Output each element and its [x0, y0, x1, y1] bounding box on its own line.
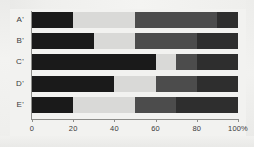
y-axis-line [31, 11, 32, 120]
y-tick-label: B' [17, 36, 24, 46]
x-tick-mark [238, 119, 239, 122]
stacked-bars [32, 11, 238, 119]
bar-segment[interactable] [217, 12, 238, 28]
x-tick-mark [114, 119, 115, 122]
bar-row[interactable] [32, 76, 238, 92]
y-tick-label: D' [16, 79, 24, 89]
bar-row[interactable] [32, 54, 238, 70]
bar-segment[interactable] [135, 33, 197, 49]
bar-segment[interactable] [197, 76, 238, 92]
bar-segment[interactable] [156, 76, 197, 92]
bar-segment[interactable] [32, 54, 156, 70]
x-tick-label: 20 [69, 124, 78, 133]
bar-segment[interactable] [32, 97, 73, 113]
x-tick-mark [197, 119, 198, 122]
x-tick-label: 40 [110, 124, 119, 133]
bar-segment[interactable] [135, 12, 217, 28]
bar-segment[interactable] [32, 12, 73, 28]
bar-row[interactable] [32, 33, 238, 49]
scan-edge-bottom [0, 136, 254, 147]
x-tick-label: 0 [30, 124, 34, 133]
bar-segment[interactable] [32, 76, 114, 92]
chart-screenshot: A'B'C'D'E' 020406080100% [0, 0, 254, 147]
bar-segment[interactable] [114, 76, 155, 92]
plot-area [32, 11, 238, 119]
x-axis-line [32, 119, 239, 120]
bar-segment[interactable] [176, 97, 238, 113]
bar-segment[interactable] [73, 97, 135, 113]
bar-segment[interactable] [94, 33, 135, 49]
bar-segment[interactable] [197, 54, 238, 70]
x-tick-label: 100% [228, 124, 248, 133]
bar-segment[interactable] [176, 54, 197, 70]
y-tick-label: C' [16, 57, 24, 67]
x-tick-mark [156, 119, 157, 122]
y-tick-label: E' [17, 100, 24, 110]
bar-segment[interactable] [32, 33, 94, 49]
y-axis-labels: A'B'C'D'E' [0, 11, 30, 119]
y-tick-label: A' [17, 15, 24, 25]
x-tick-label: 60 [151, 124, 160, 133]
bar-row[interactable] [32, 97, 238, 113]
x-tick-mark [32, 119, 33, 122]
x-tick-label: 80 [192, 124, 201, 133]
bar-segment[interactable] [135, 97, 176, 113]
scan-edge-top [0, 0, 254, 9]
bar-row[interactable] [32, 12, 238, 28]
bar-segment[interactable] [73, 12, 135, 28]
x-tick-mark [73, 119, 74, 122]
bar-segment[interactable] [156, 54, 177, 70]
bar-segment[interactable] [197, 33, 238, 49]
